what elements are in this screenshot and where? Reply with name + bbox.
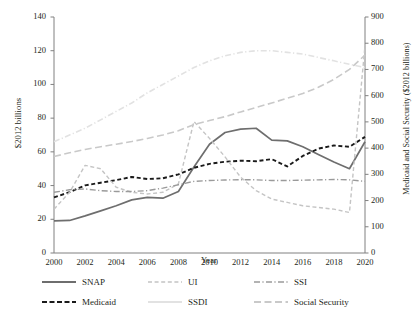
legend-row: SNAPUISSI [0, 272, 418, 292]
legend-item-label: UI [188, 277, 198, 287]
legend-item-label: Medicaid [82, 297, 116, 307]
series-line-ssdi [54, 51, 365, 142]
legend-row: MedicaidSSDISocial Security [0, 292, 418, 312]
legend-item-medicaid[interactable]: Medicaid [41, 297, 133, 307]
legend-item-ssi[interactable]: SSI [253, 277, 363, 287]
legend-swatch [147, 277, 183, 287]
chart-container: $2012 billions Medicaid and Social Secur… [0, 0, 418, 329]
legend-item-label: SSI [294, 277, 307, 287]
chart-legend: SNAPUISSI MedicaidSSDISocial Security [0, 272, 418, 312]
series-line-ssi [54, 180, 365, 193]
legend-item-ssdi[interactable]: SSDI [147, 297, 239, 307]
legend-item-label: SNAP [82, 277, 105, 287]
legend-item-snap[interactable]: SNAP [41, 277, 133, 287]
legend-item-label: SSDI [188, 297, 208, 307]
legend-item-social-security[interactable]: Social Security [253, 297, 363, 307]
legend-item-ui[interactable]: UI [147, 277, 239, 287]
legend-swatch [253, 277, 289, 287]
legend-swatch [41, 277, 77, 287]
legend-item-label: Social Security [294, 297, 349, 307]
legend-swatch [253, 297, 289, 307]
series-line-ui [54, 46, 365, 213]
series-line-snap [54, 128, 365, 221]
series-line-medicaid [54, 137, 365, 198]
series-line-social-security [54, 55, 365, 156]
legend-swatch [147, 297, 183, 307]
legend-swatch [41, 297, 77, 307]
